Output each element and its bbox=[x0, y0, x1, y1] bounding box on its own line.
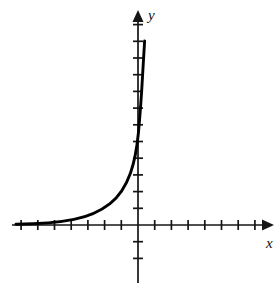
x-axis-arrow-icon bbox=[262, 220, 274, 231]
graph-figure: y x bbox=[0, 0, 280, 299]
y-axis-label: y bbox=[146, 7, 155, 23]
x-axis-label: x bbox=[265, 235, 273, 251]
exponential-curve-group bbox=[16, 41, 145, 224]
y-axis-arrow-icon bbox=[133, 10, 144, 22]
exponential-curve bbox=[16, 41, 145, 224]
coordinate-plane: y x bbox=[0, 0, 280, 299]
